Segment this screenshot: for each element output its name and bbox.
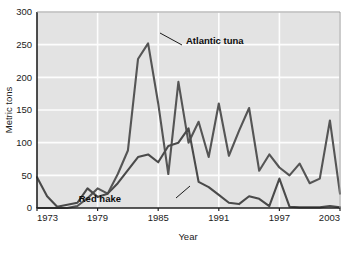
x-axis-tick-label: 1997: [269, 212, 290, 223]
x-axis-tick-label: 1985: [148, 212, 169, 223]
x-axis-tick-label: 1979: [87, 212, 108, 223]
y-axis-tick-label: 250: [16, 39, 32, 50]
x-axis-tick-label: 2003: [319, 212, 340, 223]
series-annotation-label: Red hake: [79, 193, 121, 204]
y-axis-tick-label: 300: [16, 6, 32, 17]
y-axis-tick-label: 50: [21, 170, 32, 181]
y-axis-tick-label: 100: [16, 137, 32, 148]
metric-tons-by-year-line-chart: 050100150200250300 197319791985199119972…: [0, 0, 353, 254]
y-axis-title: Metric tons: [3, 87, 14, 134]
series-annotation-label: Atlantic tuna: [186, 35, 244, 46]
x-axis-tick-label: 1991: [208, 212, 229, 223]
x-axis-title: Year: [178, 231, 197, 242]
chart-container: 050100150200250300 197319791985199119972…: [0, 0, 353, 254]
y-axis-tick-label: 200: [16, 72, 32, 83]
x-axis-tick-label: 1973: [37, 212, 58, 223]
y-axis-tick-label: 150: [16, 104, 32, 115]
y-axis-tick-label: 0: [27, 202, 32, 213]
